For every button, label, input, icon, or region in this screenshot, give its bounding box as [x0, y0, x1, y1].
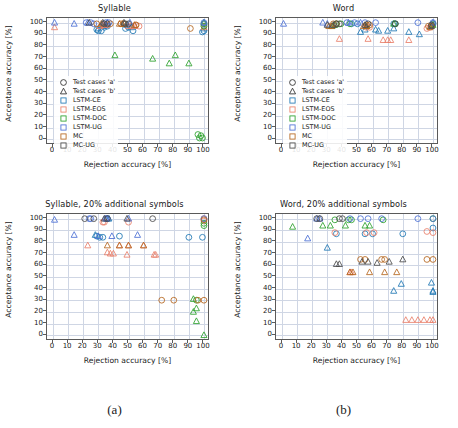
y-tick-mark [43, 79, 46, 80]
panel-top-right: Word Acceptance accuracy [%] 01020304050… [229, 0, 458, 196]
legend-mc-ug: MC-UG [57, 141, 115, 150]
y-tick-mark [43, 138, 46, 139]
panel-bottom-right: Word, 20% additional symbols Acceptance … [229, 196, 458, 392]
y-tick-mark [272, 275, 275, 276]
y-tick-label: 100 [259, 214, 272, 222]
triangle-marker-icon [286, 87, 299, 96]
x-tick-label: 80 [168, 146, 177, 154]
legend-label: MC-UG [70, 140, 95, 150]
square-marker-icon [57, 105, 70, 114]
legend-lstm-ug: LSTM-UG [57, 123, 115, 132]
x-tick-label: 90 [183, 146, 192, 154]
x-tick-mark [326, 340, 327, 343]
y-tick-label: 50 [263, 272, 272, 280]
y-tick-mark [43, 114, 46, 115]
x-tick-mark [416, 144, 417, 147]
x-tick-mark [127, 144, 128, 147]
y-tick-mark [272, 310, 275, 311]
x-tick-mark [172, 340, 173, 343]
y-tick-mark [43, 252, 46, 253]
y-tick-mark [272, 322, 275, 323]
x-tick-mark [401, 144, 402, 147]
x-tick-label: 90 [412, 342, 421, 350]
x-tick-label: 30 [93, 342, 102, 350]
y-tick-mark [43, 264, 46, 265]
x-tick-mark [401, 340, 402, 343]
x-tick-label: 70 [382, 342, 391, 350]
x-tick-mark [202, 144, 203, 147]
figure-root: Syllable Acceptance accuracy [%] 0102030… [0, 0, 458, 428]
square-marker-icon [57, 114, 70, 123]
y-tick-label: 60 [263, 64, 272, 72]
square-marker-icon [57, 141, 70, 150]
y-tick-label: 90 [34, 225, 43, 233]
x-tick-mark [431, 144, 432, 147]
x-tick-mark [142, 340, 143, 343]
legend-mc-ug: MC-UG [286, 141, 344, 150]
panel-title: Word [229, 3, 458, 13]
y-tick-mark [43, 299, 46, 300]
y-tick-mark [272, 287, 275, 288]
legend: Test cases 'a'Test cases 'b'LSTM-CELSTM-… [283, 76, 347, 152]
y-tick-mark [272, 21, 275, 22]
y-tick-mark [272, 252, 275, 253]
legend-lstm-ug: LSTM-UG [286, 123, 344, 132]
x-tick-mark [187, 144, 188, 147]
y-tick-mark [272, 264, 275, 265]
x-tick-mark [157, 144, 158, 147]
panel-top-left: Syllable Acceptance accuracy [%] 0102030… [0, 0, 229, 196]
y-tick-mark [272, 103, 275, 104]
x-tick-mark [52, 144, 53, 147]
y-tick-label: 60 [263, 260, 272, 268]
y-tick-mark [43, 68, 46, 69]
y-tick-mark [43, 44, 46, 45]
x-tick-mark [341, 340, 342, 343]
x-tick-mark [416, 340, 417, 343]
x-tick-mark [112, 340, 113, 343]
x-tick-label: 60 [367, 146, 376, 154]
plot-area [46, 213, 209, 340]
circle-marker-icon [57, 78, 70, 87]
panel-title: Word, 20% additional symbols [229, 199, 458, 209]
x-tick-label: 0 [279, 342, 283, 350]
panel-bottom-left: Syllable, 20% additional symbols Accepta… [0, 196, 229, 392]
x-tick-mark [82, 340, 83, 343]
y-tick-label: 10 [263, 123, 272, 131]
plot-area [275, 213, 438, 340]
x-axis-label: Rejection accuracy [%] [46, 356, 209, 365]
y-axis-label: Acceptance accuracy [%] [227, 17, 239, 144]
x-tick-label: 50 [123, 146, 132, 154]
x-tick-mark [52, 340, 53, 343]
y-tick-label: 50 [263, 76, 272, 84]
legend: Test cases 'a'Test cases 'b'LSTM-CELSTM-… [54, 76, 118, 152]
y-tick-mark [43, 229, 46, 230]
x-tick-label: 10 [292, 342, 301, 350]
y-tick-mark [43, 103, 46, 104]
y-tick-mark [272, 114, 275, 115]
y-tick-mark [272, 299, 275, 300]
y-tick-label: 40 [263, 88, 272, 96]
y-tick-mark [272, 217, 275, 218]
x-tick-mark [386, 340, 387, 343]
y-tick-mark [272, 240, 275, 241]
y-tick-label: 80 [34, 41, 43, 49]
x-tick-mark [431, 340, 432, 343]
y-tick-mark [272, 33, 275, 34]
panel-title: Syllable [0, 3, 229, 13]
y-tick-label: 60 [34, 64, 43, 72]
y-tick-mark [43, 56, 46, 57]
square-marker-icon [286, 105, 299, 114]
y-tick-label: 50 [34, 272, 43, 280]
x-tick-label: 40 [108, 342, 117, 350]
x-tick-label: 90 [183, 342, 192, 350]
square-marker-icon [57, 132, 70, 141]
data-markers [276, 214, 439, 341]
x-tick-label: 50 [352, 342, 361, 350]
x-tick-mark [172, 144, 173, 147]
y-tick-label: 30 [34, 99, 43, 107]
triangle-marker-icon [57, 87, 70, 96]
y-tick-label: 90 [263, 225, 272, 233]
x-tick-mark [371, 340, 372, 343]
y-tick-mark [272, 56, 275, 57]
x-tick-label: 100 [425, 342, 438, 350]
